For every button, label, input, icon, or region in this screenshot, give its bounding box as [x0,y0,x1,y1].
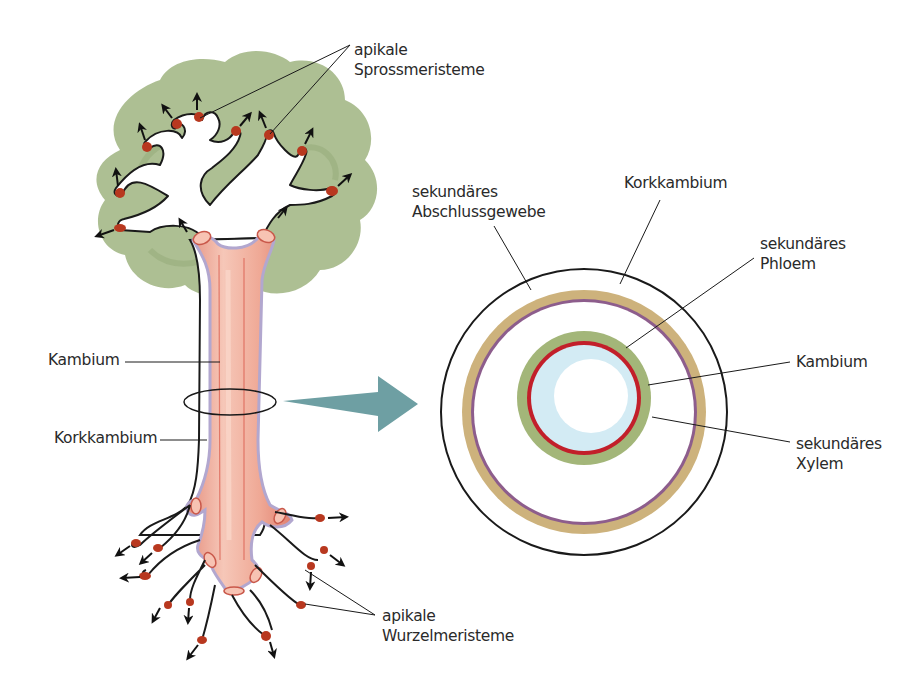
label-line: Wurzelmeristeme [382,626,514,646]
label-line: apikale [354,40,484,60]
label-line: Phloem [760,254,846,274]
tree-illustration [96,45,377,658]
section-arrow [283,376,418,432]
label-apical-root-meristems: apikale Wurzelmeristeme [382,606,514,646]
label-secondary-bark: sekundäres Abschlussgewebe [412,182,546,222]
label-line: Xylem [796,454,882,474]
label-line: Sprossmeristeme [354,60,484,80]
label-cork-cambium-section: Korkkambium [624,173,727,193]
label-cambium-section: Kambium [796,352,867,372]
pith-center [554,359,628,433]
label-secondary-xylem: sekundäres Xylem [796,434,882,474]
label-line: apikale [382,606,514,626]
label-apical-shoot-meristems: apikale Sprossmeristeme [354,40,484,80]
cross-section [441,200,790,555]
label-secondary-phloem: sekundäres Phloem [760,234,846,274]
label-cork-cambium-tree: Korkkambium [54,428,157,448]
label-line: sekundäres [412,182,546,202]
label-line: Abschlussgewebe [412,202,546,222]
label-line: sekundäres [760,234,846,254]
plant-growth-diagram [0,0,916,692]
label-cambium-tree: Kambium [48,350,119,370]
label-line: sekundäres [796,434,882,454]
